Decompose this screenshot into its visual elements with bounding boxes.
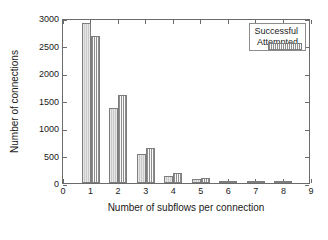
bar-successful-2 bbox=[109, 108, 118, 183]
x-tick-label: 6 bbox=[226, 186, 231, 197]
bar-attempted-7 bbox=[256, 181, 265, 183]
bar-successful-1 bbox=[82, 23, 91, 183]
legend-label-successful: Successful bbox=[254, 26, 298, 37]
legend-item-attempted: Attempted bbox=[254, 37, 302, 48]
legend: Successful Attempted bbox=[249, 23, 306, 51]
bar-successful-4 bbox=[164, 176, 173, 183]
y-tick-label: 2000 bbox=[39, 69, 59, 80]
y-tick-label: 1000 bbox=[39, 124, 59, 135]
x-tick-label: 7 bbox=[253, 186, 258, 197]
bar-attempted-5 bbox=[201, 178, 210, 183]
x-tick-label: 9 bbox=[308, 186, 313, 197]
bar-attempted-8 bbox=[283, 181, 292, 183]
x-tick-mark-top bbox=[311, 20, 312, 24]
bar-successful-3 bbox=[137, 154, 146, 183]
legend-item-successful: Successful bbox=[254, 26, 302, 37]
bar-attempted-4 bbox=[173, 173, 182, 183]
x-tick-label: 2 bbox=[116, 186, 121, 197]
chart-figure: Number of connections 050010001500200025… bbox=[0, 0, 328, 240]
x-axis-title: Number of subflows per connection bbox=[62, 202, 310, 213]
y-axis-title-text: Number of connections bbox=[9, 50, 20, 153]
x-tick-label: 0 bbox=[60, 186, 65, 197]
plot-area: 050010001500200025003000 0123456789 Succ… bbox=[62, 19, 310, 184]
y-tick-label: 2500 bbox=[39, 42, 59, 53]
x-tick-label: 4 bbox=[171, 186, 176, 197]
x-tick-label: 8 bbox=[281, 186, 286, 197]
bar-successful-8 bbox=[274, 181, 283, 183]
x-tick-label: 5 bbox=[198, 186, 203, 197]
y-axis-title: Number of connections bbox=[8, 19, 20, 184]
x-tick-label: 3 bbox=[143, 186, 148, 197]
x-tick-mark bbox=[311, 179, 312, 183]
bar-successful-6 bbox=[219, 181, 228, 183]
bar-attempted-6 bbox=[228, 181, 237, 183]
y-tick-label: 3000 bbox=[39, 14, 59, 25]
bar-successful-5 bbox=[192, 179, 201, 183]
y-tick-label: 1500 bbox=[39, 97, 59, 108]
bar-attempted-3 bbox=[146, 148, 155, 183]
y-tick-label: 0 bbox=[54, 179, 59, 190]
x-tick-label: 1 bbox=[88, 186, 93, 197]
bar-attempted-1 bbox=[91, 36, 100, 183]
bar-successful-7 bbox=[247, 181, 256, 183]
y-tick-label: 500 bbox=[44, 152, 59, 163]
legend-swatch-attempted bbox=[268, 43, 302, 50]
bar-attempted-2 bbox=[118, 95, 127, 183]
